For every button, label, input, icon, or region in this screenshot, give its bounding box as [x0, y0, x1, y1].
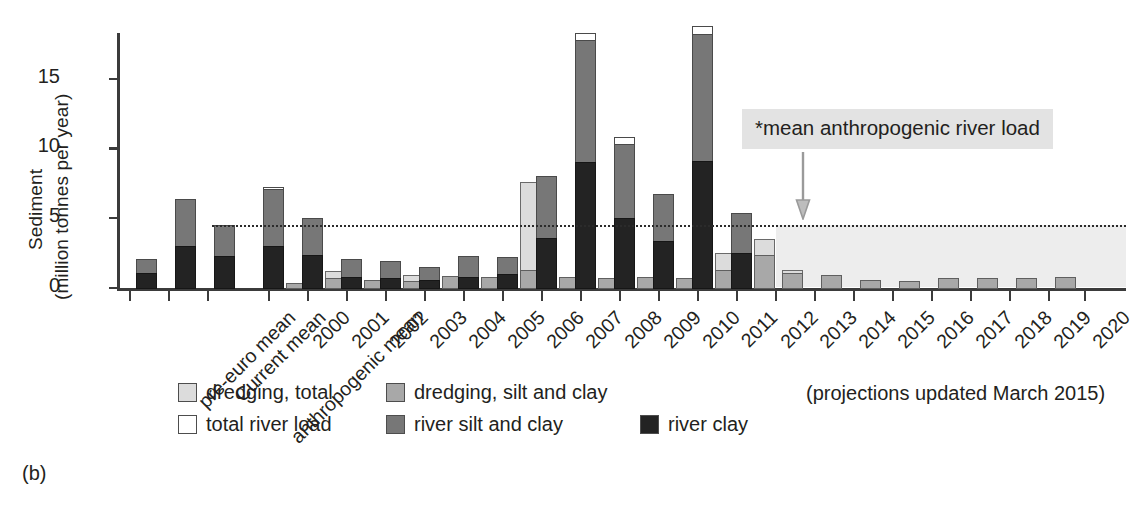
x-tick-label-2009: 2009: [659, 306, 706, 353]
segment-river-silt-and-clay: [614, 144, 635, 219]
x-tick: [814, 290, 816, 301]
segment-dredging-silt-and-clay: [1055, 277, 1076, 289]
segment-river-silt-and-clay: [692, 34, 713, 162]
bar-dredging-2015: [860, 281, 881, 289]
segment-river-silt-and-clay: [214, 225, 235, 257]
segment-river-silt-and-clay: [575, 40, 596, 164]
annotation-arrow-icon: [795, 152, 811, 220]
legend-label: dredging, total: [206, 381, 333, 404]
y-tick-label: 0: [0, 274, 60, 297]
x-tick-label-2013: 2013: [815, 306, 862, 353]
legend-swatch-dredging-silt-clay: [386, 383, 405, 402]
projection-note: (projections updated March 2015): [806, 382, 1105, 405]
segment-river-silt-and-clay: [380, 261, 401, 278]
bar-dredging-2020: [1055, 278, 1076, 289]
legend-label: river silt and clay: [414, 413, 563, 436]
segment-river-silt-and-clay: [175, 199, 196, 247]
legend-item-dredging-silt-clay[interactable]: dredging, silt and clay: [386, 381, 607, 404]
legend-item-river-clay[interactable]: river clay: [640, 413, 748, 436]
x-tick-label-2011: 2011: [736, 306, 782, 352]
mean-anthropogenic-river-load-line: [212, 225, 1126, 227]
segment-river-clay: [731, 253, 752, 289]
legend-label: total river load: [206, 413, 332, 436]
bar-river-Current-mean: [175, 200, 196, 289]
segment-river-clay: [341, 277, 362, 289]
segment-river-clay: [380, 278, 401, 289]
bar-dredging-2018: [977, 279, 998, 289]
y-axis-title-line2: (million tonnes per year): [50, 94, 74, 300]
x-tick-label-2012: 2012: [776, 306, 823, 353]
legend-item-dredging-total[interactable]: dredging, total: [178, 381, 333, 404]
y-tick: [109, 147, 118, 149]
bar-river-2008: [575, 34, 596, 289]
bar-dredging-2017: [938, 279, 959, 289]
x-tick: [658, 290, 660, 301]
bar-river-2010: [653, 195, 674, 289]
segment-river-clay: [536, 238, 557, 289]
x-tick: [307, 290, 309, 301]
segment-river-silt-and-clay: [302, 218, 323, 256]
x-tick: [970, 290, 972, 301]
segment-river-silt-and-clay: [263, 189, 284, 247]
x-tick-label-2008: 2008: [620, 306, 667, 353]
y-tick-label: 15: [0, 65, 60, 88]
segment-river-clay: [263, 246, 284, 289]
bar-dredging-2014: [821, 276, 842, 289]
legend-swatch-river-silt-clay: [386, 415, 405, 434]
legend-swatch-river-clay: [640, 415, 659, 434]
x-tick-label-2018: 2018: [1010, 306, 1057, 353]
x-tick: [619, 290, 621, 301]
y-tick: [109, 217, 118, 219]
bar-dredging-2019: [1016, 279, 1037, 289]
segment-dredging-silt-and-clay: [899, 281, 920, 289]
bar-river-2006: [497, 258, 518, 289]
legend-item-river-silt-clay[interactable]: river silt and clay: [386, 413, 563, 436]
bar-river-anthropogenic-mean: [214, 226, 235, 289]
legend-label: dredging, silt and clay: [414, 381, 607, 404]
x-tick-label-2016: 2016: [932, 306, 979, 353]
x-tick: [207, 290, 209, 301]
segment-dredging-silt-and-clay: [938, 278, 959, 289]
y-tick-label: 10: [0, 134, 60, 157]
x-tick: [580, 290, 582, 301]
x-tick: [1048, 290, 1050, 301]
segment-river-silt-and-clay: [731, 213, 752, 254]
segment-river-silt-and-clay: [136, 259, 157, 274]
panel-label: (b): [22, 462, 46, 485]
segment-river-clay: [614, 218, 635, 289]
legend-item-river-total[interactable]: total river load: [178, 413, 332, 436]
x-tick-label-2006: 2006: [542, 306, 589, 353]
bar-river-2011: [692, 27, 713, 289]
segment-river-silt-and-clay: [653, 194, 674, 242]
x-tick: [541, 290, 543, 301]
segment-river-clay: [214, 256, 235, 289]
annotation-label: *mean anthropogenic river load: [742, 109, 1053, 149]
bar-river-2001: [302, 219, 323, 289]
x-tick-label-2004: 2004: [464, 306, 511, 353]
chart-figure: Sediment (million tonnes per year) 05101…: [0, 0, 1142, 507]
x-tick: [853, 290, 855, 301]
bar-river-pre-euro-mean: [136, 260, 157, 289]
x-tick: [1084, 290, 1086, 301]
x-tick: [1009, 290, 1011, 301]
x-tick: [697, 290, 699, 301]
x-tick: [424, 290, 426, 301]
segment-river-silt-and-clay: [419, 267, 440, 281]
y-tick: [109, 78, 118, 80]
segment-dredging-silt-and-clay: [782, 273, 803, 289]
bar-dredging-2016: [899, 282, 920, 289]
bar-river-2002: [341, 260, 362, 289]
legend-swatch-dredging-total: [178, 383, 197, 402]
segment-river-silt-and-clay: [458, 256, 479, 278]
x-tick: [268, 290, 270, 301]
segment-river-silt-and-clay: [536, 176, 557, 238]
segment-river-silt-and-clay: [497, 257, 518, 275]
y-tick-label: 5: [0, 204, 60, 227]
segment-dredging-silt-and-clay: [860, 280, 881, 289]
x-tick: [892, 290, 894, 301]
segment-river-clay: [497, 274, 518, 289]
y-tick: [109, 287, 118, 289]
x-tick: [502, 290, 504, 301]
segment-dredging-silt-and-clay: [977, 278, 998, 289]
x-tick: [931, 290, 933, 301]
